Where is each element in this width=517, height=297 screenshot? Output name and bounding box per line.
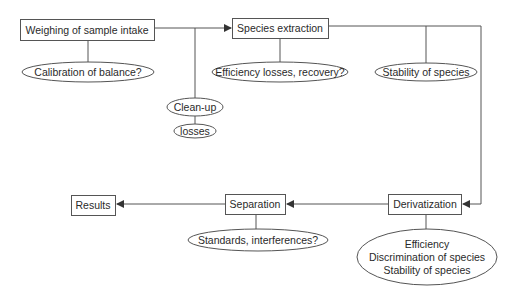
stability-label: Stability of species — [383, 66, 470, 78]
derivatization-issue-2: Discrimination of species — [369, 251, 485, 263]
derivatization-issue-1: Efficiency — [405, 238, 450, 250]
results-label: Results — [75, 199, 110, 211]
derivatization-label: Derivatization — [393, 198, 457, 210]
calibration-label: Calibration of balance? — [34, 66, 142, 78]
weighing-label: Weighing of sample intake — [26, 24, 149, 36]
workflow-diagram: Weighing of sample intake Species extrac… — [0, 0, 517, 297]
extraction-label: Species extraction — [237, 22, 323, 34]
cleanup-losses-label: losses — [180, 125, 210, 137]
arrow-extraction-to-derivatization — [328, 26, 481, 204]
efficiency-losses-label: Efficiency losses, recovery? — [215, 66, 345, 78]
separation-label: Separation — [230, 198, 281, 210]
derivatization-issue-3: Stability of species — [384, 264, 471, 276]
cleanup-label: Clean-up — [174, 101, 217, 113]
standards-label: Standards, interferences? — [198, 234, 318, 246]
